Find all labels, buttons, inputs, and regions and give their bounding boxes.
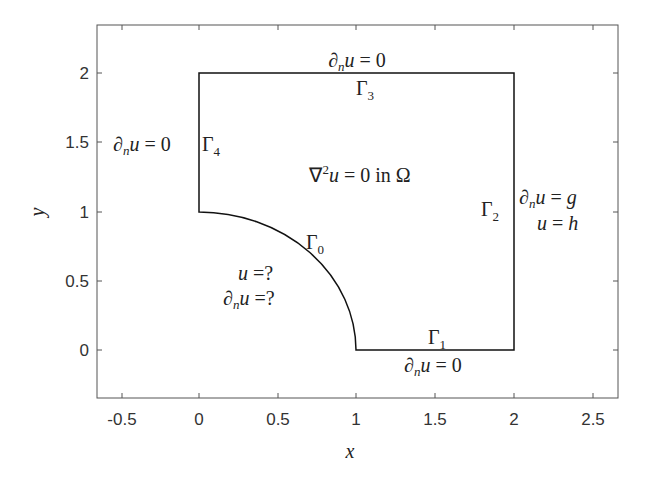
y-tick-label: 2 <box>80 64 89 83</box>
gamma1-label: Γ1 <box>428 326 446 352</box>
gamma3-label: Γ3 <box>356 77 374 103</box>
y-tick-labels: 0 0.5 1 1.5 2 <box>65 64 89 360</box>
gamma0-condition-neumann: ∂nu =? <box>223 287 275 312</box>
gamma4-condition: ∂nu = 0 <box>113 133 171 158</box>
x-tick-labels: -0.5 0 0.5 1 1.5 2 2.5 <box>107 410 604 429</box>
x-tick-label: 2.5 <box>581 410 605 429</box>
y-tick-label: 1.5 <box>65 133 89 152</box>
x-tick-label: 0.5 <box>266 410 290 429</box>
y-tick-label: 0 <box>80 341 89 360</box>
x-axis-label: x <box>345 440 355 462</box>
x-tick-label: 1 <box>351 410 360 429</box>
y-tick-label: 1 <box>80 203 89 222</box>
domain-equation: ∇2u = 0 in Ω <box>308 162 410 186</box>
domain-diagram: -0.5 0 0.5 1 1.5 2 2.5 0 0.5 1 1.5 2 x y… <box>0 0 650 482</box>
gamma2-condition-neumann: ∂nu = g <box>519 186 577 211</box>
gamma4-label: Γ4 <box>202 133 221 159</box>
gamma3-condition: ∂nu = 0 <box>328 49 386 74</box>
gamma1-condition: ∂nu = 0 <box>404 354 462 379</box>
y-tick-label: 0.5 <box>65 272 89 291</box>
gamma0-condition-dirichlet: u =? <box>238 262 273 284</box>
gamma2-condition-dirichlet: u = h <box>537 212 578 234</box>
x-tick-label: -0.5 <box>107 410 136 429</box>
x-tick-label: 2 <box>509 410 518 429</box>
x-tick-label: 0 <box>194 410 203 429</box>
gamma2-label: Γ2 <box>481 198 499 224</box>
y-axis-label: y <box>26 207 49 218</box>
gamma0-label: Γ0 <box>306 231 324 257</box>
x-tick-label: 1.5 <box>423 410 447 429</box>
